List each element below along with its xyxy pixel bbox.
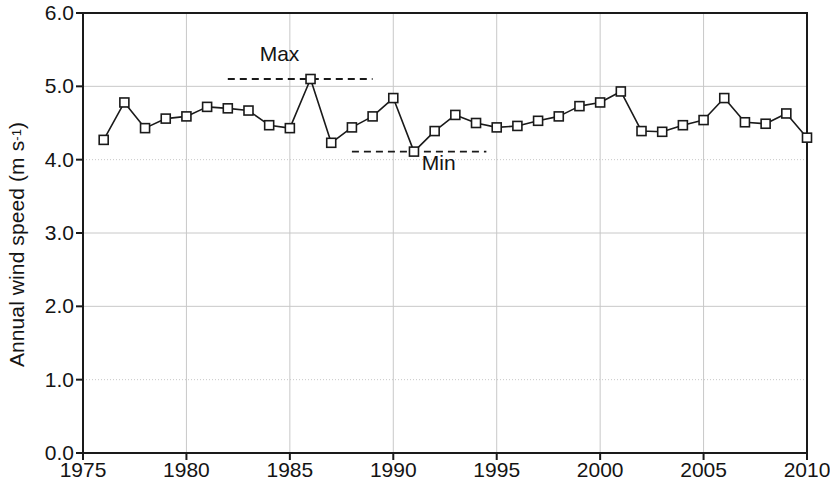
data-point-marker [347,123,356,132]
data-point-marker [472,119,481,128]
axis-ticks [76,13,807,460]
data-point-marker [223,104,232,113]
data-point-marker [534,116,543,125]
annotation-labels: MaxMin [260,42,456,174]
data-point-marker [182,112,191,121]
data-point-marker [161,114,170,123]
annotation-label-min: Min [422,151,456,174]
data-point-marker [637,127,646,136]
data-point-marker [409,147,418,156]
gridlines [83,13,807,453]
data-point-marker [141,124,150,133]
data-point-marker [99,135,108,144]
annotation-label-max: Max [260,42,300,65]
data-point-marker [699,116,708,125]
annotation-lines [228,79,487,152]
data-point-marker [451,110,460,119]
data-point-marker [430,127,439,136]
data-point-marker [678,121,687,130]
data-point-marker [368,112,377,121]
data-point-marker [203,102,212,111]
data-point-marker [575,102,584,111]
data-point-marker [782,109,791,118]
data-point-marker [596,98,605,107]
data-point-marker [492,123,501,132]
data-point-marker [327,138,336,147]
data-point-marker [554,112,563,121]
data-point-marker [658,127,667,136]
data-point-marker [389,94,398,103]
data-point-marker [513,121,522,130]
data-point-marker [120,98,129,107]
data-point-marker [740,118,749,127]
data-point-marker [616,87,625,96]
data-point-marker [306,75,315,84]
data-point-marker [265,121,274,130]
data-point-marker [761,119,770,128]
data-point-marker [244,106,253,115]
data-point-marker [285,124,294,133]
data-point-marker [803,133,812,142]
data-point-marker [720,94,729,103]
